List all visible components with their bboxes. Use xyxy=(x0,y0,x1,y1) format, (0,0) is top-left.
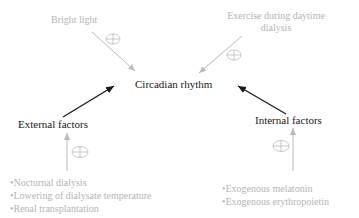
exercise-label-line1: Exercise during daytime xyxy=(216,10,336,22)
exercise-label-line2: dialysis xyxy=(216,22,336,34)
exercise-label: Exercise during daytime dialysis xyxy=(216,10,336,34)
list-item: •Lowering of dialysate temperature xyxy=(10,189,152,202)
list-item: •Renal transplantation xyxy=(10,202,152,215)
internal-arrow xyxy=(238,86,286,114)
external-factors-list: •Nocturnal dialysis •Lowering of dialysa… xyxy=(10,176,152,215)
bright-light-arrow xyxy=(92,32,135,71)
list-item: •Exogenous melatonin xyxy=(222,182,329,195)
external-factors-label: External factors xyxy=(18,118,88,130)
list-item: •Nocturnal dialysis xyxy=(10,176,152,189)
list-item: •Exogenous erythropoietin xyxy=(222,195,329,208)
external-arrow xyxy=(63,86,114,117)
bright-light-label: Bright light xyxy=(51,14,97,26)
internal-factors-label: Internal factors xyxy=(255,114,322,126)
internal-factors-list: •Exogenous melatonin •Exogenous erythrop… xyxy=(222,182,329,208)
circadian-rhythm-label: Circadian rhythm xyxy=(135,78,212,90)
exercise-arrow xyxy=(199,36,242,73)
